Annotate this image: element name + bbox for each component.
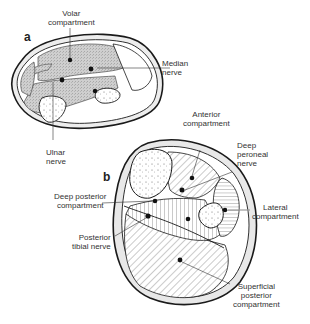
- label-superficial-posterior-compartment: Superficial posterior compartment: [233, 282, 280, 309]
- label-ulnar-nerve: Ulnar nerve: [46, 148, 66, 166]
- label-deep-peroneal-nerve: Deep peroneal nerve: [237, 141, 268, 168]
- label-median-nerve: Median nerve: [162, 59, 188, 77]
- panel-label-b: b: [103, 170, 110, 184]
- panel-label-a: a: [24, 30, 31, 44]
- forearm-cross-section: [12, 28, 170, 140]
- label-anterior-compartment: Anterior compartment: [183, 110, 230, 128]
- leg-cross-section: [102, 140, 257, 305]
- label-deep-posterior-compartment: Deep posterior compartment: [54, 192, 106, 210]
- label-lateral-compartment: Lateral compartment: [252, 203, 299, 221]
- label-posterior-tibial-nerve: Posterior tibial nerve: [72, 233, 111, 251]
- label-volar-compartment: Volar compartment: [48, 9, 95, 27]
